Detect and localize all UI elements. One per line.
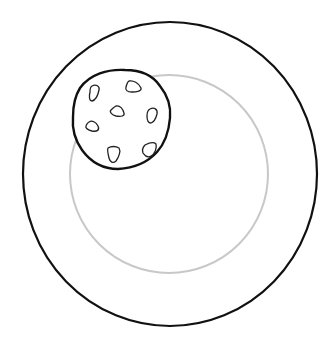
plate-outer-rim — [23, 22, 317, 326]
cookie — [73, 70, 170, 169]
plate — [23, 22, 317, 326]
cookie-plate-illustration — [0, 0, 335, 346]
